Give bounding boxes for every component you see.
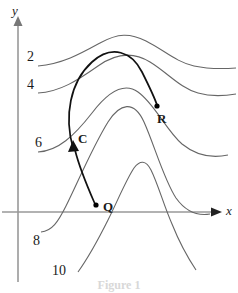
level-label-6: 6 bbox=[35, 136, 42, 150]
level-curve-6 bbox=[38, 88, 228, 156]
figure-caption: Figure 1 bbox=[0, 278, 238, 293]
point-q-label: Q bbox=[103, 200, 113, 213]
level-label-8: 8 bbox=[33, 234, 40, 248]
point-r-marker bbox=[154, 103, 159, 108]
point-q-marker bbox=[93, 202, 98, 207]
level-curve-4 bbox=[38, 55, 236, 95]
level-curve-8 bbox=[41, 107, 210, 232]
x-axis-label: x bbox=[226, 204, 232, 217]
level-label-10: 10 bbox=[52, 264, 66, 278]
curve-c-label: C bbox=[78, 132, 87, 145]
level-label-4: 4 bbox=[27, 78, 34, 92]
level-label-2: 2 bbox=[27, 50, 34, 64]
y-axis bbox=[14, 16, 23, 282]
level-curve-10 bbox=[78, 162, 196, 272]
point-r-label: R bbox=[157, 112, 166, 125]
path-c-lower-segment bbox=[75, 150, 95, 204]
y-axis-label: y bbox=[12, 4, 18, 17]
path-c bbox=[68, 52, 157, 204]
